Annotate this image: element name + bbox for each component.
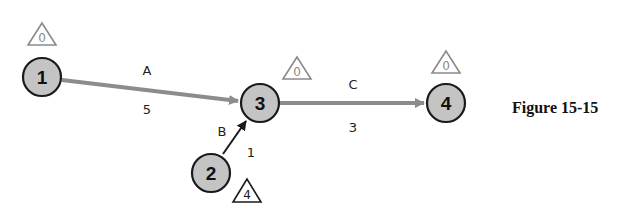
node-2-slack: 4 (243, 188, 251, 202)
edge-a-activity: A (143, 63, 152, 78)
node-2: 2 4 (192, 154, 261, 202)
edge-c-activity: C (348, 77, 357, 92)
node-2-label: 2 (206, 163, 217, 184)
edge-b-activity: B (218, 124, 227, 139)
node-4: 4 0 (427, 51, 465, 122)
edge-b-duration: 1 (247, 145, 255, 160)
edge-c-duration: 3 (349, 120, 357, 135)
node-1-slack: 0 (38, 31, 46, 45)
node-1-label: 1 (37, 67, 48, 88)
arrow-a (62, 80, 238, 101)
node-4-slack: 0 (442, 59, 450, 73)
network-diagram: A 5 B 1 C 3 1 0 3 0 2 4 4 0 F (0, 0, 639, 214)
figure-caption: Figure 15-15 (512, 99, 598, 117)
edge-a-duration: 5 (143, 102, 151, 117)
node-3-slack: 0 (293, 65, 301, 79)
node-3-label: 3 (255, 93, 266, 114)
edge-c: C 3 (280, 77, 424, 135)
edge-a: A 5 (62, 63, 238, 117)
node-4-label: 4 (441, 93, 452, 114)
node-3: 3 0 (241, 57, 311, 122)
node-1: 1 0 (23, 23, 61, 96)
edge-b: B 1 (218, 121, 256, 160)
